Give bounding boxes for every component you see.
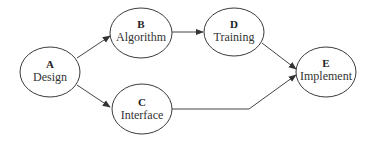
node-d-training: D Training	[204, 8, 264, 56]
node-a-label: Design	[33, 70, 67, 84]
edge-a-to-b	[77, 36, 110, 58]
node-d-label: Training	[214, 30, 255, 44]
node-e-implement: E Implement	[296, 47, 356, 97]
edge-a-to-c	[77, 85, 110, 107]
node-b-label: Algorithm	[116, 30, 167, 44]
node-a-design: A Design	[20, 47, 80, 97]
node-c-interface: C Interface	[112, 84, 172, 134]
node-e-id: E	[322, 57, 329, 69]
edge-d-to-e	[262, 43, 296, 69]
node-b-id: B	[137, 18, 145, 30]
node-d-id: D	[230, 18, 238, 30]
node-c-label: Interface	[121, 108, 164, 122]
node-b-algorithm: B Algorithm	[110, 8, 172, 58]
node-a-id: A	[46, 58, 54, 70]
flow-diagram: A Design B Algorithm C Interface D Train…	[0, 0, 377, 144]
edge-c-to-e	[172, 75, 296, 109]
node-e-label: Implement	[300, 69, 353, 83]
node-c-id: C	[138, 96, 146, 108]
